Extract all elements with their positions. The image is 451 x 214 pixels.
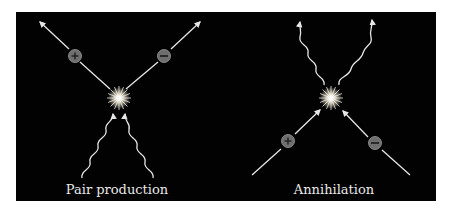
- interaction-flash-icon: [107, 86, 131, 110]
- pair-production-label: Pair production: [66, 182, 169, 197]
- electron-icon: [369, 137, 382, 150]
- figure-canvas: Pair production: [0, 0, 451, 214]
- diagram-background: [16, 12, 436, 201]
- positron-icon: [282, 135, 295, 148]
- annihilation-label: Annihilation: [293, 182, 375, 197]
- electron-icon: [158, 50, 171, 63]
- positron-icon: [69, 50, 82, 63]
- interaction-flash-icon: [319, 86, 343, 110]
